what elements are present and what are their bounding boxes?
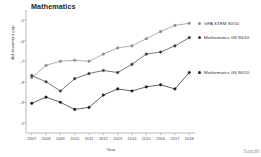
data-point [131,90,134,93]
data-point [159,83,162,86]
x-tick-label: 2013 [113,136,122,141]
y-tick-label: -.6 [19,38,24,43]
data-point [174,45,177,48]
data-point [174,88,177,91]
y-axis-label: Achievement gap [10,10,15,76]
data-point [45,80,48,83]
data-point [174,24,177,27]
data-point [116,47,119,50]
data-point [88,60,91,63]
y-tick-label: -.5 [19,18,24,23]
legend-marker-icon [198,71,201,74]
legend-marker-icon [198,22,201,25]
data-point [102,53,105,56]
data-point [102,94,105,97]
x-tick-label: 2011 [85,136,94,141]
chart-container: Mathematics Achievement gap -.5-.6-.7-.8… [0,0,261,157]
data-point [30,102,33,105]
x-tick-label: 2008 [42,136,51,141]
x-axis-label: Year [26,147,196,152]
data-point [88,106,91,109]
y-tick-label: -.9 [19,100,24,105]
x-tick-label: 2018 [185,136,194,141]
x-tick-label: 2015 [142,136,151,141]
data-point [102,69,105,72]
data-point [30,74,33,77]
data-point [159,51,162,54]
x-tick-label: 2010 [70,136,79,141]
legend-item-0[interactable]: GPA STEM 90/10 [198,21,239,26]
y-tick-label: -1 [20,120,24,125]
x-tick-label: 2007 [27,136,36,141]
data-point [159,30,162,33]
data-point [188,71,191,74]
data-point [131,45,134,48]
legend-label: GPA STEM 90/10 [204,21,239,26]
legend-item-2[interactable]: Mathematics G5 90/10 [198,70,249,75]
y-tick-label: -.7 [19,59,24,64]
data-point [188,22,191,25]
x-tick-label: 2017 [170,136,179,141]
x-tick-label: 2016 [156,136,165,141]
data-point [59,90,62,93]
x-tick-label: 2014 [128,136,137,141]
series-line-2 [32,73,190,110]
legend-marker-icon [198,36,201,39]
watermark: Sandb [243,147,260,154]
x-tick-label: 2012 [99,136,108,141]
plot-area: -.5-.6-.7-.8-.9-120072008200920102011201… [26,10,195,133]
data-point [45,96,48,99]
legend-item-1[interactable]: Mathematics G8 90/10 [198,35,249,40]
legend-label: Mathematics G8 90/10 [204,35,249,40]
data-point [145,37,148,40]
x-tick-label: 2009 [56,136,65,141]
data-point [73,59,76,62]
legend-label: Mathematics G5 90/10 [204,70,249,75]
data-point [116,71,119,74]
data-point [145,86,148,89]
data-point [88,72,91,75]
plot-svg [26,10,195,133]
y-tick-label: -.8 [19,79,24,84]
data-point [131,63,134,66]
series-line-1 [32,38,190,91]
data-point [145,53,148,56]
data-point [188,36,191,39]
series-line-0 [32,23,190,77]
data-point [45,64,48,67]
data-point [116,88,119,91]
data-point [73,108,76,111]
data-point [73,77,76,80]
data-point [59,60,62,63]
data-point [59,101,62,104]
